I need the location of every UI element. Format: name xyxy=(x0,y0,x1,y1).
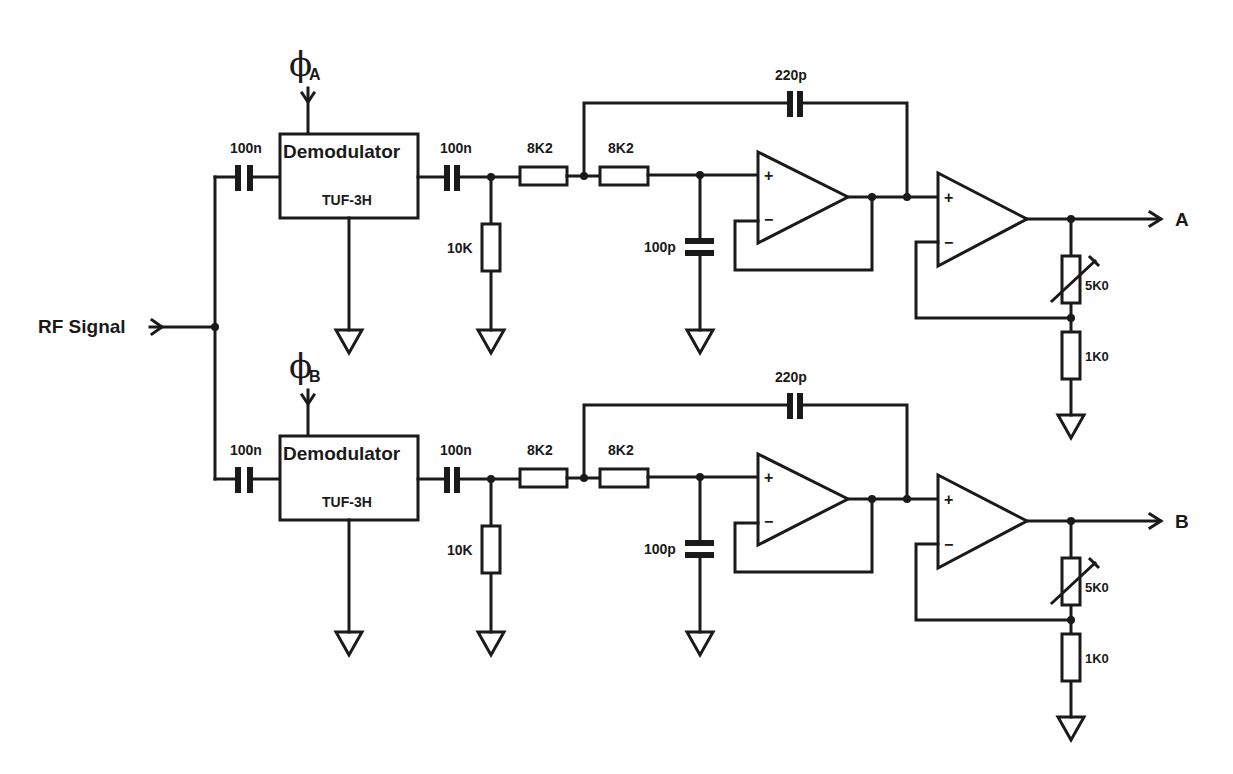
ground-icon xyxy=(1058,717,1084,740)
ground-icon xyxy=(687,330,713,353)
demodulator-a-title: Demodulator xyxy=(283,141,401,162)
opamp-plus: + xyxy=(944,189,953,206)
shunt-resistor-a-label: 10K xyxy=(447,240,473,256)
coupling-cap-b-label: 100n xyxy=(440,442,472,458)
node xyxy=(1067,314,1075,322)
buffer-opamp-b-icon xyxy=(758,454,848,545)
ground-resistor-b-icon xyxy=(1062,634,1080,681)
demodulator-b-part: TUF-3H xyxy=(322,494,372,510)
opamp-plus: + xyxy=(764,469,773,486)
schematic-svg: RF Signal ϕ A 100n Demodulator TUF-3H 10… xyxy=(0,0,1233,774)
feedback-cap-a-icon xyxy=(790,91,800,117)
opamp-minus: − xyxy=(764,513,773,530)
node xyxy=(868,193,876,201)
series-resistor-b1-label: 8K2 xyxy=(527,442,553,458)
opamp-minus: − xyxy=(944,234,953,251)
rf-input: RF Signal xyxy=(38,177,219,479)
shunt-cap-b-icon xyxy=(685,543,714,555)
ground-icon xyxy=(1058,415,1084,438)
ground-icon xyxy=(336,330,362,353)
shunt-resistor-b-icon xyxy=(482,526,500,573)
output-a-label: A xyxy=(1175,209,1189,230)
node xyxy=(903,495,911,503)
series-resistor-a1-icon xyxy=(520,167,567,185)
phase-b-subscript: B xyxy=(309,368,321,385)
opamp-plus: + xyxy=(944,491,953,508)
ground-resistor-a-icon xyxy=(1062,332,1080,379)
series-resistor-a2-label: 8K2 xyxy=(608,140,634,156)
series-resistor-a1-label: 8K2 xyxy=(527,140,553,156)
ground-resistor-a-label: 1K0 xyxy=(1085,349,1109,364)
ground-icon xyxy=(478,632,504,655)
input-cap-b-icon xyxy=(238,467,250,493)
node xyxy=(1067,616,1075,624)
feedback-cap-b-label: 220p xyxy=(775,369,807,385)
ground-icon xyxy=(687,632,713,655)
coupling-cap-a-icon xyxy=(447,165,457,191)
phase-a-subscript: A xyxy=(309,66,321,83)
buffer-opamp-a-icon xyxy=(758,152,848,243)
series-resistor-b2-label: 8K2 xyxy=(608,442,634,458)
demodulator-a-part: TUF-3H xyxy=(322,192,372,208)
gain-opamp-b-icon xyxy=(938,475,1027,568)
opamp-plus: + xyxy=(764,167,773,184)
node xyxy=(868,495,876,503)
shunt-cap-a-label: 100p xyxy=(644,239,676,255)
output-b-label: B xyxy=(1175,511,1189,532)
feedback-cap-a-label: 220p xyxy=(775,67,807,83)
feedback-cap-b-icon xyxy=(790,393,800,419)
shunt-resistor-b-label: 10K xyxy=(447,542,473,558)
rf-signal-label: RF Signal xyxy=(38,316,126,337)
channel-b: ϕ B 100n Demodulator TUF-3H 100n 10K 8K2… xyxy=(215,346,1189,740)
ground-icon xyxy=(336,632,362,655)
ground-resistor-b-label: 1K0 xyxy=(1085,651,1109,666)
opamp-minus: − xyxy=(764,211,773,228)
ground-icon xyxy=(478,330,504,353)
channel-a: ϕ A 100n Demodulator TUF-3H 100n 10K 8K2… xyxy=(215,44,1189,438)
input-cap-a-label: 100n xyxy=(230,140,262,156)
input-cap-b-label: 100n xyxy=(230,442,262,458)
shunt-resistor-a-icon xyxy=(482,224,500,271)
demodulator-b-title: Demodulator xyxy=(283,443,401,464)
trim-resistor-a-label: 5K0 xyxy=(1085,278,1109,293)
series-resistor-a2-icon xyxy=(600,167,648,185)
shunt-cap-b-label: 100p xyxy=(644,541,676,557)
gain-opamp-a-icon xyxy=(938,173,1027,266)
series-resistor-b2-icon xyxy=(600,469,648,487)
circuit-diagram: RF Signal ϕ A 100n Demodulator TUF-3H 10… xyxy=(0,0,1233,774)
shunt-cap-a-icon xyxy=(685,241,714,253)
opamp-minus: − xyxy=(944,536,953,553)
trim-resistor-b-label: 5K0 xyxy=(1085,580,1109,595)
coupling-cap-a-label: 100n xyxy=(440,140,472,156)
input-cap-a-icon xyxy=(238,165,250,191)
coupling-cap-b-icon xyxy=(447,467,457,493)
series-resistor-b1-icon xyxy=(520,469,567,487)
node xyxy=(903,193,911,201)
